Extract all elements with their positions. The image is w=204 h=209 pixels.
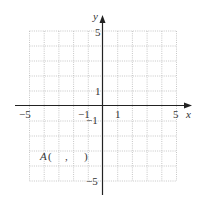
tick-y-neg1: −1 [86, 114, 98, 126]
point-comma: , [65, 150, 68, 162]
tick-y-neg5: −5 [86, 175, 98, 187]
tick-y-pos1: 1 [95, 85, 101, 97]
y-axis-label: y [92, 10, 98, 22]
x-axis-label: x [185, 108, 191, 120]
point-open-paren: ( [48, 150, 52, 163]
tick-x-neg5: −5 [19, 108, 31, 120]
y-axis-arrow-icon [100, 15, 106, 23]
point-name: A [39, 150, 47, 162]
tick-x-pos5: 5 [173, 108, 179, 120]
point-close-paren: ) [84, 150, 88, 163]
tick-x-pos1: 1 [115, 108, 121, 120]
coordinate-plane: y x −5 −1 1 5 5 1 −1 −5 A ( , ) [0, 0, 204, 209]
x-axis [15, 103, 192, 109]
tick-y-pos5: 5 [95, 26, 101, 38]
point-a-label: A ( , ) [39, 150, 88, 163]
